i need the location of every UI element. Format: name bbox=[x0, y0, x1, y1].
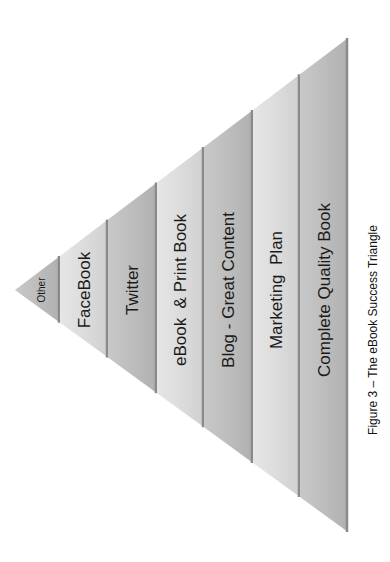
band-label: Marketing Plan bbox=[267, 231, 286, 349]
ebook-success-triangle-figure: OtherFaceBookTwittereBook & Print BookBl… bbox=[0, 0, 390, 562]
band-label: Blog - Great Content bbox=[219, 212, 238, 368]
band-label: Complete Quality Book bbox=[315, 203, 334, 377]
figure-caption: Figure 3 – The eBook Success Triangle bbox=[366, 225, 380, 435]
band-label: Twitter bbox=[123, 265, 142, 315]
band-label: eBook & Print Book bbox=[171, 213, 190, 366]
band-label: Other bbox=[36, 277, 47, 303]
band-label: FaceBook bbox=[75, 251, 94, 328]
success-triangle-diagram: OtherFaceBookTwittereBook & Print BookBl… bbox=[0, 0, 390, 562]
